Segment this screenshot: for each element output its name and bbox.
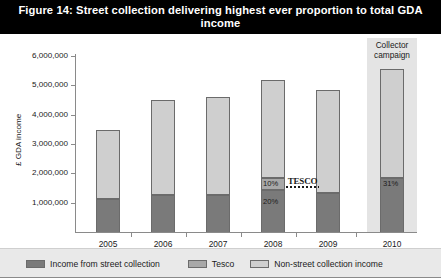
x-tick-label-2006: 2006	[139, 239, 187, 249]
bar-2008-tesco-percent-label: 10%	[263, 179, 278, 188]
bar-2005-non-street	[96, 130, 120, 199]
y-tick-label-3000000: 3,000,000	[18, 139, 68, 148]
y-tick-label-1000000: 1,000,000	[18, 198, 68, 207]
legend-swatch-non-street	[250, 260, 269, 268]
bar-2007-non-street	[206, 97, 230, 195]
x-tick-2005	[131, 233, 132, 237]
y-tick-6000000	[71, 56, 75, 57]
x-tick-2008	[296, 233, 297, 237]
bar-2009-street	[316, 193, 340, 233]
y-axis-title: £ GDA income	[14, 114, 23, 166]
page-title: Figure 14: Street collection delivering …	[0, 4, 441, 31]
bar-2006-street	[151, 195, 175, 233]
y-tick-label-2000000: 2,000,000	[18, 168, 68, 177]
x-tick-label-2008: 2008	[249, 239, 297, 249]
legend-label-non-street: Non-street collection income	[274, 259, 382, 269]
annotation-line-2: campaign	[367, 50, 417, 60]
legend-item-non-street[interactable]: Non-street collection income	[250, 259, 382, 269]
tesco-wordmark-text: TESCO	[286, 177, 319, 186]
x-tick-label-2005: 2005	[84, 239, 132, 249]
bar-2008-street-percent-label: 20%	[263, 197, 278, 206]
tesco-underline-icon	[286, 186, 319, 188]
legend-item-tesco[interactable]: Tesco	[188, 259, 234, 269]
legend-swatch-tesco	[188, 260, 207, 268]
bar-2006-non-street	[151, 100, 175, 195]
y-tick-5000000	[71, 85, 75, 86]
y-tick-1000000	[71, 203, 75, 204]
y-tick-label-5000000: 5,000,000	[18, 80, 68, 89]
legend-label-tesco: Tesco	[212, 259, 234, 269]
legend-item-street-collection[interactable]: Income from street collection	[26, 259, 160, 269]
x-tick-label-2009: 2009	[304, 239, 352, 249]
plot-area: Collector campaign 6,000,000 5,000,000 4…	[0, 34, 441, 248]
tesco-wordmark-callout: TESCO	[286, 177, 319, 188]
bar-2009-non-street	[316, 90, 340, 193]
legend-swatch-street-collection	[26, 260, 45, 268]
x-tick-2006	[186, 233, 187, 237]
x-axis-line	[75, 232, 417, 233]
figure-title-band: Figure 14: Street collection delivering …	[0, 0, 441, 34]
y-tick-2000000	[71, 173, 75, 174]
x-tick-2007	[241, 233, 242, 237]
legend-label-street-collection: Income from street collection	[50, 259, 160, 269]
chart-legend: Income from street collection Tesco Non-…	[0, 248, 441, 278]
x-tick-label-2007: 2007	[194, 239, 242, 249]
y-tick-label-6000000: 6,000,000	[18, 51, 68, 60]
y-tick-label-4000000: 4,000,000	[18, 110, 68, 119]
y-axis-line	[75, 54, 76, 233]
y-tick-3000000	[71, 144, 75, 145]
x-tick-label-2010: 2010	[368, 239, 416, 249]
collector-campaign-annotation: Collector campaign	[367, 40, 417, 60]
y-tick-4000000	[71, 115, 75, 116]
bar-2010-street-percent-label: 31%	[383, 179, 398, 188]
bar-2005-street	[96, 199, 120, 233]
bar-2010-non-street	[380, 69, 404, 178]
bar-2007-street	[206, 195, 230, 233]
x-tick-2009	[356, 233, 357, 237]
bar-2008-non-street	[261, 80, 285, 178]
annotation-line-1: Collector	[367, 40, 417, 50]
